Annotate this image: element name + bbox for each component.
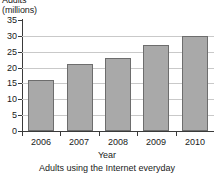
- plot-area: [22, 20, 214, 131]
- y-tick-label: 35: [0, 15, 17, 25]
- x-tick-label: 2008: [99, 137, 137, 147]
- y-axis-title-line-2: (millions): [2, 5, 37, 15]
- y-tick-label: 5: [0, 110, 17, 120]
- bar: [67, 64, 93, 131]
- y-tick-mark: [18, 115, 22, 116]
- y-tick-label: 30: [0, 31, 17, 41]
- y-tick-mark: [18, 36, 22, 37]
- y-tick-mark: [18, 99, 22, 100]
- x-tick-label: 2007: [60, 137, 98, 147]
- x-axis-title: Year: [0, 150, 214, 160]
- y-tick-mark: [18, 83, 22, 84]
- x-tick-mark: [99, 132, 100, 136]
- bar: [182, 36, 208, 131]
- x-tick-label: 2010: [176, 137, 214, 147]
- y-axis-title: Adults (millions): [2, 0, 37, 15]
- x-tick-mark: [22, 132, 23, 136]
- y-tick-label: 0: [0, 126, 17, 136]
- y-tick-label: 20: [0, 63, 17, 73]
- x-axis-line: [22, 131, 214, 132]
- x-tick-mark: [176, 132, 177, 136]
- bar-chart: Adults (millions) 05101520253035 2006200…: [0, 0, 214, 178]
- x-tick-mark: [60, 132, 61, 136]
- y-tick-mark: [18, 68, 22, 69]
- y-tick-label: 25: [0, 47, 17, 57]
- bar: [28, 80, 54, 131]
- y-tick-label: 15: [0, 78, 17, 88]
- bar: [143, 45, 169, 131]
- y-tick-mark: [18, 52, 22, 53]
- x-tick-label: 2006: [22, 137, 60, 147]
- bar: [105, 58, 131, 131]
- chart-caption: Adults using the Internet everyday: [0, 163, 214, 173]
- x-tick-label: 2009: [137, 137, 175, 147]
- x-tick-mark: [137, 132, 138, 136]
- y-tick-label: 10: [0, 94, 17, 104]
- y-tick-mark: [18, 20, 22, 21]
